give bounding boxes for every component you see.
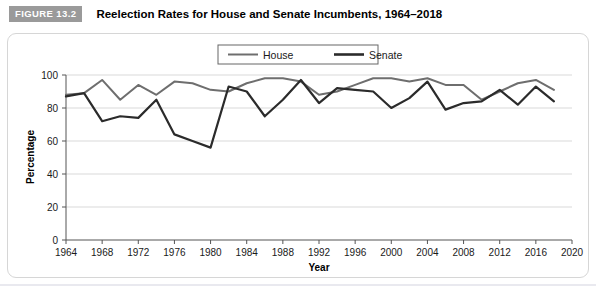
- page-title: Reelection Rates for House and Senate In…: [96, 8, 442, 20]
- figure-container: FIGURE 13.2 Reelection Rates for House a…: [0, 0, 596, 288]
- bottom-divider: [0, 284, 596, 286]
- chart-card: [7, 33, 589, 278]
- figure-number-badge: FIGURE 13.2: [9, 6, 82, 22]
- figure-header: FIGURE 13.2 Reelection Rates for House a…: [0, 0, 596, 28]
